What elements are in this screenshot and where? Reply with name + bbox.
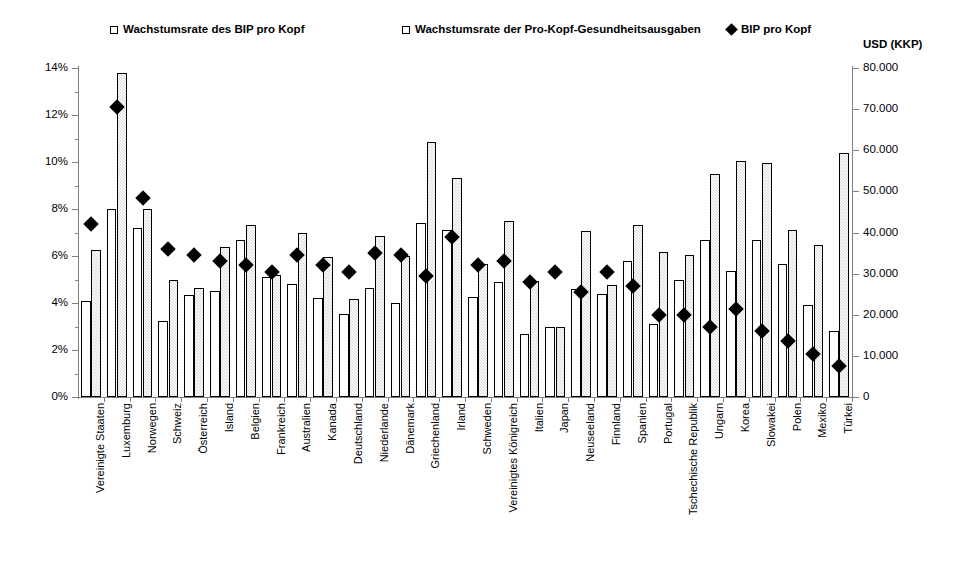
bar-health-expenditure-growth — [633, 225, 643, 397]
marker-gdp-per-capita — [599, 264, 615, 280]
bar-health-expenditure-growth — [220, 247, 230, 397]
x-axis-tick — [310, 397, 311, 402]
y-axis-right-tick — [853, 315, 859, 316]
bar-health-expenditure-growth — [659, 252, 669, 397]
x-axis-category-label: Luxemburg — [121, 403, 132, 458]
x-axis-category-label: Irland — [456, 403, 467, 431]
y-axis-left-tick-label: 2% — [8, 343, 68, 355]
y-axis-left-tick-label: 8% — [8, 202, 68, 214]
y-axis-right-tick — [853, 191, 859, 192]
bar-health-expenditure-growth — [814, 245, 824, 397]
bar-health-expenditure-growth — [607, 285, 617, 397]
bar-health-expenditure-growth — [194, 288, 204, 397]
x-axis-category-label: Polen — [792, 403, 803, 431]
legend-item-health-growth: Wachstumsrate der Pro-Kopf-Gesundheitsau… — [402, 24, 701, 36]
x-axis-category-label: Ungarn — [714, 403, 725, 439]
bar-gdp-growth — [545, 327, 555, 398]
y-axis-right-tick-label: 0 — [863, 390, 869, 402]
bar-health-expenditure-growth — [246, 225, 256, 397]
y-axis-right-tick — [853, 356, 859, 357]
y-axis-right-tick — [853, 397, 859, 398]
y-axis-right-tick-label: 70.000 — [863, 102, 898, 114]
x-axis-labels: Vereinigte StaatenLuxemburgNorwegenSchwe… — [0, 403, 961, 567]
x-axis-tick — [130, 397, 131, 402]
x-axis-tick — [284, 397, 285, 402]
x-axis-tick — [775, 397, 776, 402]
bar-health-expenditure-growth — [685, 255, 695, 397]
x-axis-tick — [542, 397, 543, 402]
bar-health-expenditure-growth — [504, 221, 514, 397]
bar-gdp-growth — [494, 282, 504, 397]
bar-health-expenditure-growth — [349, 299, 359, 397]
x-axis-category-label: Norwegen — [147, 403, 158, 453]
x-axis-category-label: Österreich — [198, 403, 209, 454]
y-axis-right-tick — [853, 274, 859, 275]
marker-gdp-per-capita — [161, 241, 177, 257]
y-axis-left-tick-label: 6% — [8, 249, 68, 261]
bar-health-expenditure-growth — [169, 280, 179, 398]
bar-health-expenditure-growth — [710, 174, 720, 397]
x-axis-tick — [155, 397, 156, 402]
bar-health-expenditure-growth — [581, 231, 591, 397]
chart-canvas: Wachstumsrate des BIP pro Kopf Wachstums… — [0, 0, 961, 567]
black-diamond-icon — [725, 23, 738, 36]
x-axis-category-label: Belgien — [250, 403, 261, 440]
bar-health-expenditure-growth — [143, 209, 153, 397]
y-axis-left-tick-label: 12% — [8, 108, 68, 120]
legend-label-health-growth: Wachstumsrate der Pro-Kopf-Gesundheitsau… — [415, 24, 701, 36]
x-axis-category-label: Slowakei — [766, 403, 777, 447]
bar-gdp-growth — [339, 314, 349, 397]
x-axis-tick — [723, 397, 724, 402]
y-axis-right-tick — [853, 233, 859, 234]
y-axis-right-tick-label: 10.000 — [863, 349, 898, 361]
x-axis-category-label: Griechenland — [430, 403, 441, 468]
y-axis-right-tick-label: 30.000 — [863, 267, 898, 279]
marker-gdp-per-capita — [341, 264, 357, 280]
marker-gdp-per-capita — [135, 190, 151, 206]
x-axis-category-label: Island — [224, 403, 235, 432]
y-axis-right-tick-label: 40.000 — [863, 226, 898, 238]
x-axis-tick — [852, 397, 853, 402]
x-axis-category-label: Italien — [534, 403, 545, 432]
bar-health-expenditure-growth — [323, 257, 333, 397]
y-axis-left-tick-label: 4% — [8, 296, 68, 308]
bar-health-expenditure-growth — [91, 250, 101, 397]
bar-health-expenditure-growth — [272, 275, 282, 397]
bar-health-expenditure-growth — [117, 73, 127, 397]
bar-gdp-growth — [287, 284, 297, 397]
x-axis-tick — [336, 397, 337, 402]
bar-gdp-growth — [133, 228, 143, 397]
marker-gdp-per-capita — [83, 216, 99, 232]
bar-gdp-growth — [649, 324, 659, 397]
bar-health-expenditure-growth — [736, 161, 746, 397]
bar-gdp-growth — [262, 277, 272, 397]
y-axis-right-tick — [853, 150, 859, 151]
x-axis-category-label: Australien — [301, 403, 312, 452]
x-axis-tick — [413, 397, 414, 402]
x-axis-tick — [620, 397, 621, 402]
x-axis-tick — [594, 397, 595, 402]
x-axis-category-label: Vereinigtes Königreich — [508, 403, 519, 512]
y-axis-left-tick-label: 14% — [8, 61, 68, 73]
x-axis-tick — [697, 397, 698, 402]
hatched-square-icon — [402, 26, 410, 34]
x-axis-category-label: Niederlande — [379, 403, 390, 462]
bar-gdp-growth — [416, 223, 426, 397]
white-square-icon — [110, 26, 118, 34]
x-axis-category-label: Finnland — [611, 403, 622, 445]
plot-area — [78, 68, 852, 397]
legend-item-gdp-percapita: BIP pro Kopf — [727, 24, 811, 36]
bar-gdp-growth — [726, 271, 736, 397]
bar-gdp-growth — [184, 295, 194, 397]
x-axis-category-label: Kanada — [327, 403, 338, 441]
x-axis-tick — [800, 397, 801, 402]
x-axis-tick — [388, 397, 389, 402]
bar-gdp-growth — [778, 264, 788, 397]
x-axis-tick — [104, 397, 105, 402]
x-axis-tick — [646, 397, 647, 402]
bar-health-expenditure-growth — [478, 264, 488, 397]
x-axis-tick — [826, 397, 827, 402]
bar-gdp-growth — [158, 321, 168, 397]
bar-gdp-growth — [520, 334, 530, 397]
marker-gdp-per-capita — [548, 264, 564, 280]
